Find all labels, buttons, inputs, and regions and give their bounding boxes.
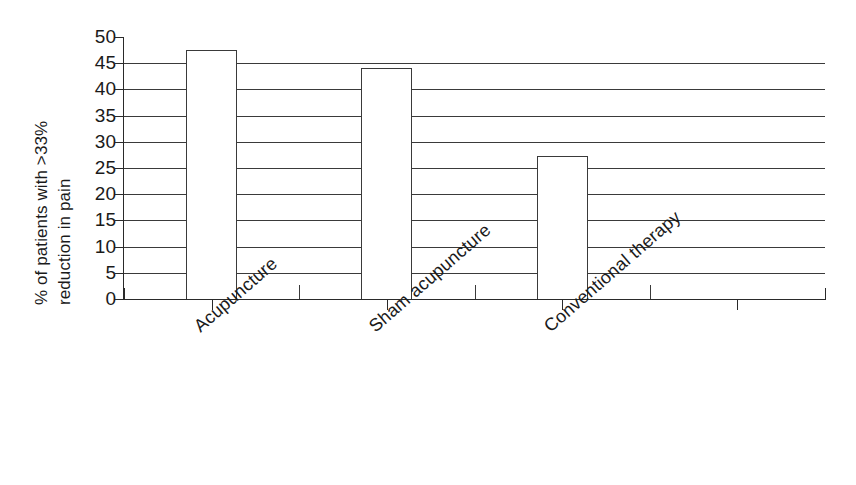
y-axis-tick-label: 30 (95, 132, 116, 151)
category-separator (299, 285, 300, 299)
y-axis-tick-label: 50 (95, 27, 116, 46)
x-axis-right-cap (825, 288, 826, 300)
y-axis-tick (115, 63, 124, 64)
y-axis-tick (115, 89, 124, 90)
y-axis-tick (115, 247, 124, 248)
x-axis-left-cap (124, 288, 125, 300)
y-axis-tick (115, 194, 124, 195)
y-axis-tick (115, 142, 124, 143)
y-axis-tick-labels: 50454035302520151050 (70, 37, 116, 299)
bar (186, 50, 237, 299)
y-axis-tick-label: 45 (95, 53, 116, 72)
y-axis-tick-label: 10 (95, 237, 116, 256)
y-axis-title-line-1: % of patients with >33% (30, 121, 53, 305)
y-axis-tick (115, 299, 124, 300)
y-axis-tick-label: 40 (95, 79, 116, 98)
y-axis-tick-label: 25 (95, 158, 116, 177)
category-separator (650, 285, 651, 299)
y-axis-tick-label: 35 (95, 106, 116, 125)
plot-area (124, 37, 825, 299)
y-axis-tick (115, 273, 124, 274)
bar-chart: % of patients with >33% reduction in pai… (0, 0, 856, 485)
y-axis-tick-label: 20 (95, 184, 116, 203)
bar (537, 156, 588, 299)
x-axis-tick (737, 299, 738, 310)
y-axis-tick (115, 168, 124, 169)
category-separator (475, 285, 476, 299)
y-axis-tick (115, 37, 124, 38)
y-axis-tick-label: 15 (95, 210, 116, 229)
bar (361, 68, 412, 299)
y-axis-tick (115, 116, 124, 117)
y-axis-tick (115, 220, 124, 221)
